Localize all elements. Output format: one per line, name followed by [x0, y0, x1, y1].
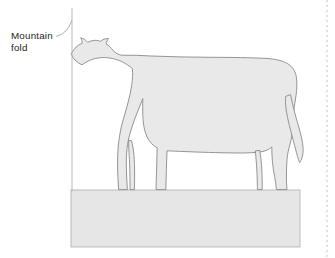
cow-far-hind-leg	[255, 151, 262, 190]
figure-root: Mountain fold	[0, 0, 335, 258]
ground-block	[71, 190, 300, 247]
cow-rear-front-leg	[129, 141, 135, 190]
page-edge-dotted-rule	[326, 0, 328, 258]
cow-body-shape	[71, 38, 296, 190]
mountain-fold-label: Mountain fold	[11, 30, 73, 53]
